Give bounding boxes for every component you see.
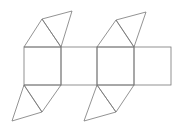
square-face-3 xyxy=(97,47,134,85)
triangle-face-7 xyxy=(97,85,134,112)
triangle-face-4 xyxy=(116,12,146,47)
square-face-1 xyxy=(24,47,61,85)
triangle-face-5 xyxy=(24,85,61,112)
square-face-2 xyxy=(61,47,97,85)
triangle-face-6 xyxy=(12,85,42,121)
triangle-face-3 xyxy=(97,20,134,47)
triangle-face-2 xyxy=(42,11,72,47)
square-face-4 xyxy=(134,47,171,85)
triangle-face-8 xyxy=(84,85,116,121)
prism-net-diagram xyxy=(0,0,179,131)
triangle-face-1 xyxy=(24,19,61,47)
